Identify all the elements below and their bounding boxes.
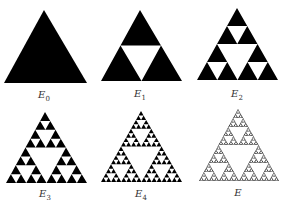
label-subscript: 1 <box>141 94 145 102</box>
triangle-shape <box>101 10 182 81</box>
label-subscript: 0 <box>45 95 49 103</box>
sierpinski-panel-1 <box>101 10 182 81</box>
label-text: E <box>234 187 241 198</box>
panel-label: E2 <box>231 89 243 103</box>
triangle-shape <box>199 109 279 181</box>
triangle-shape <box>4 10 87 83</box>
sierpinski-panel-0 <box>4 10 87 83</box>
triangle-shape <box>197 8 278 80</box>
sierpinski-panel-limit <box>199 109 279 181</box>
label-subscript: 3 <box>46 194 50 202</box>
panel-label: E <box>234 188 241 198</box>
sierpinski-panel-3 <box>6 112 87 183</box>
sierpinski-panel-4 <box>101 111 182 182</box>
triangle-shape <box>101 111 182 182</box>
panel-label: E0 <box>38 90 50 104</box>
panel-label: E1 <box>134 89 146 103</box>
panel-label: E3 <box>39 189 51 203</box>
sierpinski-panel-2 <box>197 8 278 80</box>
triangle-shape <box>6 112 87 183</box>
panel-label: E4 <box>135 189 147 203</box>
label-subscript: 2 <box>238 94 242 102</box>
label-subscript: 4 <box>142 194 146 202</box>
